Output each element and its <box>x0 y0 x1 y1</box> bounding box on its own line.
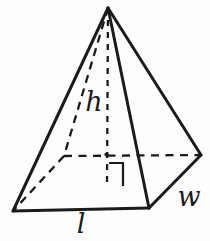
pyramid-edges <box>13 8 201 211</box>
pyramid-figure: h w l <box>0 0 210 241</box>
edge-apex-base_center <box>107 8 108 186</box>
right-angle-marker <box>109 163 123 186</box>
width-label: w <box>177 181 200 212</box>
edge-back_left-back_right <box>64 155 201 156</box>
edge-back_left-front_left <box>13 156 64 211</box>
length-label: l <box>77 208 86 239</box>
edge-apex-back_left <box>64 8 108 156</box>
pyramid-diagram: h w l <box>0 0 210 241</box>
height-label: h <box>85 86 102 117</box>
intersection-dot <box>104 152 108 156</box>
